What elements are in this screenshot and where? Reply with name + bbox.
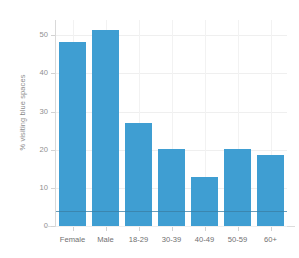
y-axis-tick-mark <box>51 35 55 36</box>
x-axis-tick-mark <box>205 227 206 231</box>
y-axis-tick-label: 50 <box>4 31 48 39</box>
bar-40-49 <box>191 177 217 226</box>
y-axis-tick-label: 30 <box>4 108 48 116</box>
y-axis-tick-mark <box>51 188 55 189</box>
x-axis-tick-mark <box>106 227 107 231</box>
y-axis-tick-labels: 01020304050 <box>0 0 48 258</box>
x-axis-tick-label: 60+ <box>247 236 295 244</box>
bar-female <box>59 42 85 226</box>
y-axis-tick-mark <box>51 112 55 113</box>
y-axis-tick-label: 20 <box>4 146 48 154</box>
x-axis-tick-mark <box>73 227 74 231</box>
bar-chart: % visiting blue spaces 01020304050 Femal… <box>0 0 299 258</box>
bar-30-39 <box>158 149 184 226</box>
y-axis-tick-mark <box>51 150 55 151</box>
y-axis-tick-label: 40 <box>4 69 48 77</box>
x-axis-tick-mark <box>139 227 140 231</box>
x-axis-tick-mark <box>238 227 239 231</box>
reference-line <box>56 211 287 212</box>
y-axis-tick-mark <box>51 226 55 227</box>
x-axis-tick-mark <box>271 227 272 231</box>
x-axis-tick-mark <box>172 227 173 231</box>
y-axis-tick-mark <box>51 73 55 74</box>
plot-area <box>56 20 287 226</box>
y-axis-tick-label: 10 <box>4 184 48 192</box>
bar-50-59 <box>224 149 250 226</box>
bar-male <box>92 30 118 226</box>
y-axis-tick-label: 0 <box>4 222 48 230</box>
bar-60- <box>257 155 283 226</box>
